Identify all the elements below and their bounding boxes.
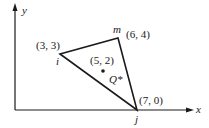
- triangle-element-diagram: y x (3, 3) i m (6, 4) (7, 0) j (5, 2) Q*: [0, 0, 209, 128]
- node-j-coord-label: (7, 0): [139, 94, 163, 107]
- triangle-element: [60, 38, 137, 110]
- y-axis-arrow-icon: [13, 3, 18, 11]
- interior-point-coord-label: (5, 2): [90, 54, 114, 67]
- x-axis-arrow-icon: [186, 108, 194, 113]
- node-m-coord-label: (6, 4): [126, 28, 150, 41]
- interior-point-label: Q*: [109, 73, 123, 85]
- y-axis-label: y: [21, 4, 27, 16]
- x-axis-label: x: [195, 103, 201, 115]
- interior-point-dot: [101, 69, 105, 73]
- node-j-label: j: [133, 113, 138, 125]
- node-i-label: i: [56, 55, 59, 67]
- node-i-coord-label: (3, 3): [36, 39, 60, 52]
- node-m-label: m: [113, 23, 121, 35]
